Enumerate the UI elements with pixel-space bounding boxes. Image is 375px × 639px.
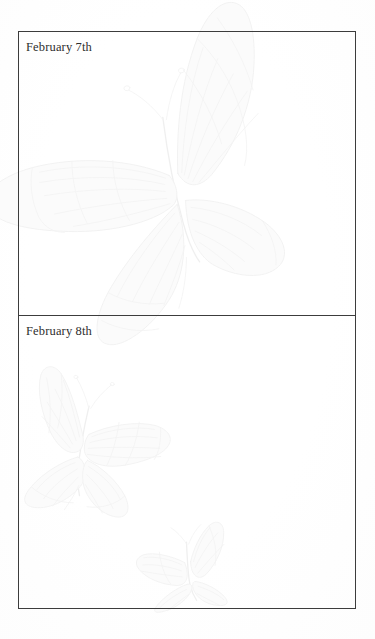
journal-entry-february-7th[interactable]: February 7th — [19, 32, 355, 316]
entry-date-label: February 7th — [26, 39, 92, 55]
entry-date-label: February 8th — [26, 323, 92, 339]
journal-page: February 7th February 8th — [0, 0, 375, 639]
entry-body-text[interactable] — [26, 342, 348, 602]
journal-entry-frame: February 7th February 8th — [18, 31, 356, 609]
entry-body-text[interactable] — [26, 58, 348, 309]
journal-entry-february-8th[interactable]: February 8th — [19, 316, 355, 608]
